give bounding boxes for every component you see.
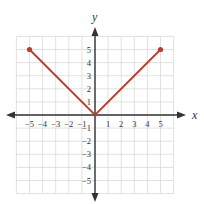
y-tick-label: −1 bbox=[82, 123, 91, 133]
y-axis-up-arrow-icon bbox=[92, 27, 99, 36]
x-tick-label: 1 bbox=[106, 119, 110, 129]
x-tick-label: 2 bbox=[119, 119, 123, 129]
y-tick-label: 5 bbox=[87, 45, 91, 55]
endpoint-dot bbox=[158, 47, 163, 52]
y-tick-label: −2 bbox=[82, 136, 91, 146]
x-tick-label: −3 bbox=[51, 119, 60, 129]
y-tick-label: 3 bbox=[87, 71, 91, 81]
x-tick-label: 4 bbox=[145, 119, 150, 129]
x-axis-label: x bbox=[191, 108, 198, 122]
x-tick-label: 5 bbox=[158, 119, 162, 129]
x-axis-right-arrow-icon bbox=[177, 112, 186, 119]
y-tick-label: 1 bbox=[87, 97, 91, 107]
x-tick-label: −4 bbox=[38, 119, 48, 129]
x-axis-left-arrow-icon bbox=[6, 112, 15, 119]
x-tick-label: −2 bbox=[64, 119, 73, 129]
y-tick-label: 2 bbox=[87, 84, 91, 94]
y-tick-label: −5 bbox=[82, 176, 91, 186]
x-tick-label: 3 bbox=[132, 119, 136, 129]
absolute-value-graph: x y −5−4−3−2−112345 54321−1−2−3−4−5 bbox=[0, 0, 204, 204]
x-tick-labels: −5−4−3−2−112345 bbox=[25, 119, 163, 129]
endpoint-dot bbox=[27, 47, 32, 52]
y-tick-label: −3 bbox=[82, 149, 91, 159]
x-tick-label: −5 bbox=[25, 119, 34, 129]
y-axis-label: y bbox=[91, 10, 98, 24]
y-axis-down-arrow-icon bbox=[92, 193, 99, 202]
y-tick-label: −4 bbox=[82, 162, 92, 172]
